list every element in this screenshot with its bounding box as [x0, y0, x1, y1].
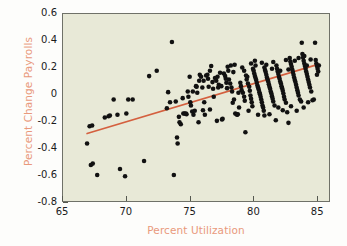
- data-point: [219, 84, 224, 89]
- x-tick: 75: [173, 205, 207, 218]
- x-tick-mark: [253, 196, 254, 201]
- data-point: [209, 64, 214, 69]
- data-point: [232, 62, 237, 67]
- data-point: [185, 89, 190, 94]
- data-point: [299, 40, 304, 45]
- data-point: [168, 100, 173, 105]
- data-point: [296, 93, 301, 98]
- data-point: [280, 108, 285, 113]
- data-point: [90, 123, 95, 128]
- data-point: [184, 112, 189, 117]
- y-tick: 0: [24, 88, 57, 100]
- data-point: [175, 135, 180, 140]
- x-axis-label: Percent Utilization: [62, 224, 330, 236]
- data-point: [312, 97, 317, 102]
- data-point: [260, 60, 265, 65]
- x-tick-mark: [62, 196, 63, 201]
- y-tick: -0.4: [24, 142, 57, 154]
- data-point: [264, 62, 269, 67]
- data-point: [242, 95, 247, 100]
- data-point: [278, 68, 283, 73]
- data-point: [242, 99, 247, 104]
- data-point: [248, 89, 253, 94]
- data-point: [220, 117, 225, 122]
- data-point: [108, 113, 113, 118]
- data-point: [211, 95, 216, 100]
- data-point: [95, 173, 100, 178]
- x-tick: 70: [109, 205, 143, 218]
- data-point: [228, 81, 233, 86]
- y-tick-label: 0.4: [24, 34, 57, 45]
- data-point: [284, 101, 289, 106]
- y-tick-label: 0.2: [24, 61, 57, 72]
- data-point: [203, 113, 208, 118]
- data-point: [194, 85, 199, 90]
- data-point: [118, 167, 123, 172]
- data-point: [196, 120, 201, 125]
- data-point: [199, 75, 204, 80]
- data-point: [250, 104, 255, 109]
- data-point: [142, 159, 147, 164]
- data-point: [180, 96, 185, 101]
- data-point: [201, 79, 206, 84]
- data-point: [200, 85, 205, 90]
- y-tick-label: -0.4: [24, 142, 57, 153]
- x-tick: 80: [236, 205, 270, 218]
- data-point: [286, 67, 291, 72]
- data-point: [170, 40, 175, 45]
- data-point: [253, 58, 258, 63]
- data-point: [206, 77, 211, 82]
- data-point: [126, 97, 131, 102]
- data-point: [289, 104, 294, 109]
- data-point: [85, 141, 90, 146]
- data-point: [154, 68, 159, 73]
- data-point: [215, 119, 220, 124]
- data-point: [286, 121, 291, 126]
- data-point: [315, 72, 320, 77]
- data-point: [215, 75, 220, 80]
- data-point: [123, 174, 128, 179]
- data-point: [236, 112, 241, 117]
- x-tick: 65: [45, 205, 79, 218]
- data-point: [124, 111, 129, 116]
- data-point: [270, 66, 275, 71]
- data-point: [197, 79, 202, 84]
- data-point: [208, 68, 213, 73]
- data-point: [293, 58, 298, 63]
- data-point: [226, 68, 231, 73]
- data-point: [225, 86, 230, 91]
- data-point: [214, 79, 219, 84]
- data-point: [229, 85, 234, 90]
- data-point: [256, 113, 261, 118]
- data-point: [249, 61, 254, 66]
- data-point: [177, 115, 182, 120]
- x-tick-label: 75: [173, 205, 207, 218]
- data-point: [166, 90, 171, 95]
- data-point: [309, 89, 314, 94]
- data-point: [294, 109, 299, 114]
- data-point: [242, 68, 247, 73]
- x-tick-label: 85: [300, 205, 334, 218]
- plot-area: [62, 13, 330, 202]
- data-point: [276, 105, 281, 110]
- data-point: [308, 57, 313, 62]
- data-point: [239, 84, 244, 89]
- data-point: [201, 108, 206, 113]
- data-point: [189, 103, 194, 108]
- data-point: [230, 89, 235, 94]
- y-tick: 0.6: [24, 7, 57, 19]
- data-point: [206, 85, 211, 90]
- x-tick-mark: [190, 196, 191, 201]
- data-point: [208, 107, 213, 112]
- data-point: [147, 74, 152, 79]
- y-tick: 0.4: [24, 34, 57, 46]
- data-point: [236, 91, 241, 96]
- data-point: [195, 91, 200, 96]
- x-tick-mark: [126, 196, 127, 201]
- data-point: [211, 87, 216, 92]
- y-tick-mark: [63, 202, 68, 203]
- data-point: [296, 56, 301, 61]
- y-tick: -0.6: [24, 169, 57, 181]
- data-point: [262, 113, 267, 118]
- data-point: [218, 70, 223, 75]
